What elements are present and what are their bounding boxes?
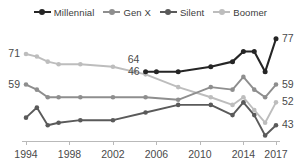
- line-marker-icon: [34, 8, 51, 17]
- x-axis-label-2014: 2014: [232, 148, 255, 160]
- data-point: [176, 85, 181, 90]
- x-axis-label-2002: 2002: [101, 148, 124, 160]
- annotation-64: 64: [128, 53, 140, 65]
- data-point: [208, 103, 213, 108]
- data-point: [176, 98, 181, 103]
- series-silent: [24, 100, 279, 138]
- series-line: [26, 77, 276, 100]
- value-label-left-46: 46: [128, 65, 140, 77]
- data-point: [230, 113, 235, 118]
- data-point: [230, 87, 235, 92]
- data-point: [263, 69, 268, 74]
- x-axis-line: [22, 141, 280, 142]
- data-point: [56, 120, 61, 125]
- data-point: [45, 59, 50, 64]
- data-point: [45, 95, 50, 100]
- x-axis-tick: [26, 141, 27, 145]
- data-point: [35, 105, 40, 110]
- value-label-right-59: 59: [282, 78, 294, 90]
- legend-label-millennial: Millennial: [54, 7, 95, 18]
- data-point: [252, 108, 257, 113]
- x-axis-label-2010: 2010: [188, 148, 211, 160]
- data-point: [230, 103, 235, 108]
- data-point: [56, 62, 61, 67]
- legend-label-boomer: Boomer: [233, 7, 267, 18]
- legend-dot-3: [219, 9, 225, 15]
- data-point: [176, 69, 181, 74]
- chart-legend: Millennial Gen X Silent Boomer: [0, 4, 301, 20]
- data-point: [274, 82, 279, 87]
- data-point: [274, 123, 279, 128]
- data-point: [252, 87, 257, 92]
- data-point: [78, 95, 83, 100]
- data-point: [252, 113, 257, 118]
- data-point: [241, 49, 246, 54]
- x-axis-tick: [113, 141, 114, 145]
- data-point: [45, 123, 50, 128]
- line-marker-icon: [103, 8, 120, 17]
- data-point: [274, 100, 279, 105]
- data-point: [241, 100, 246, 105]
- chart-container: Millennial Gen X Silent Boomer 19941998: [0, 0, 301, 167]
- legend-dot-1: [109, 9, 115, 15]
- series-line: [26, 54, 276, 123]
- x-axis-tick: [243, 141, 244, 145]
- data-point: [154, 69, 159, 74]
- data-point: [143, 110, 148, 115]
- data-point: [252, 49, 257, 54]
- series-boomer: [24, 52, 279, 125]
- value-label-left-59: 59: [8, 78, 20, 90]
- data-point: [35, 54, 40, 59]
- x-axis-tick: [200, 141, 201, 145]
- series-line: [26, 102, 276, 135]
- legend-item-gen-x[interactable]: Gen X: [103, 7, 150, 18]
- data-point: [24, 52, 29, 57]
- x-axis-label-1998: 1998: [58, 148, 81, 160]
- data-point: [78, 118, 83, 123]
- data-point: [241, 95, 246, 100]
- x-axis-label-1994: 1994: [14, 148, 37, 160]
- series-gen-x: [24, 75, 279, 103]
- legend-label-gen-x: Gen X: [123, 7, 150, 18]
- data-point: [208, 64, 213, 69]
- value-label-left-71: 71: [8, 47, 20, 59]
- data-point: [143, 69, 148, 74]
- data-point: [274, 36, 279, 41]
- legend-item-boomer[interactable]: Boomer: [213, 7, 267, 18]
- line-marker-icon: [213, 8, 230, 17]
- data-point: [143, 95, 148, 100]
- chart-svg: [0, 20, 301, 145]
- value-label-right-77: 77: [282, 32, 294, 44]
- data-point: [56, 95, 61, 100]
- data-point: [24, 82, 29, 87]
- data-point: [35, 87, 40, 92]
- data-point: [111, 64, 116, 69]
- data-point: [263, 120, 268, 125]
- data-point: [111, 118, 116, 123]
- data-point: [208, 85, 213, 90]
- data-point: [78, 62, 83, 67]
- x-axis-label-2006: 2006: [145, 148, 168, 160]
- series-millennial: [143, 36, 278, 74]
- data-point: [208, 95, 213, 100]
- legend-label-silent: Silent: [180, 7, 204, 18]
- chart-plot-area: [0, 20, 301, 145]
- x-axis-tick: [156, 141, 157, 145]
- value-label-right-43: 43: [282, 118, 294, 130]
- data-point: [263, 133, 268, 138]
- data-point: [24, 115, 29, 120]
- data-point: [263, 95, 268, 100]
- x-axis-tick: [69, 141, 70, 145]
- data-point: [176, 103, 181, 108]
- value-label-right-52: 52: [282, 95, 294, 107]
- x-axis-tick: [276, 141, 277, 145]
- x-axis: 1994199820022006201020142017: [0, 141, 301, 167]
- data-point: [241, 75, 246, 80]
- data-point: [111, 95, 116, 100]
- legend-dot-0: [39, 9, 45, 15]
- legend-item-millennial[interactable]: Millennial: [34, 7, 95, 18]
- legend-item-silent[interactable]: Silent: [160, 7, 204, 18]
- data-point: [230, 59, 235, 64]
- legend-dot-2: [165, 9, 171, 15]
- line-marker-icon: [160, 8, 177, 17]
